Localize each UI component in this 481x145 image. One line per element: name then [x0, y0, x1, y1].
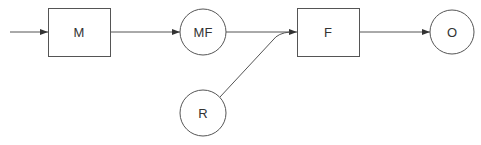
edge-r-to-f	[220, 32, 290, 97]
node-f: F	[298, 9, 360, 57]
node-m: M	[49, 9, 111, 57]
node-r: R	[180, 90, 226, 136]
node-f-label: F	[324, 25, 332, 40]
node-m-label: M	[74, 25, 85, 40]
node-o-label: O	[447, 25, 457, 40]
node-o: O	[430, 10, 474, 54]
flow-diagram: M MF F O R	[0, 0, 481, 145]
node-mf-label: MF	[194, 25, 213, 40]
node-r-label: R	[198, 106, 207, 121]
node-mf: MF	[180, 9, 226, 55]
